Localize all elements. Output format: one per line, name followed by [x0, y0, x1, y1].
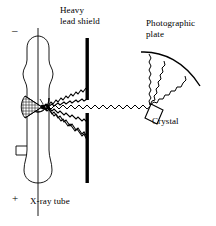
cathode-cup-outline — [21, 96, 42, 118]
blocked-ray-lower-extra — [43, 107, 87, 140]
label-xray-tube: X-ray tube — [30, 196, 70, 207]
primary-beam — [43, 105, 151, 109]
diffracted-beam-group — [149, 54, 186, 105]
label-photographic-plate: Photographic plate — [146, 18, 195, 39]
cathode-cup — [18, 94, 44, 122]
label-cathode-terminal: – — [12, 25, 18, 36]
figure-canvas: Heavy lead shield Photographic plate Cry… — [0, 0, 216, 226]
tube-side-stub — [16, 146, 27, 155]
diffracted-beam-1 — [149, 54, 151, 105]
label-heavy-lead-shield: Heavy lead shield — [60, 5, 100, 26]
label-anode-terminal: + — [12, 193, 18, 204]
lead-shield-upper-bar — [86, 38, 89, 100]
label-crystal: Crystal — [152, 116, 179, 127]
lead-shield-lower-bar — [86, 113, 89, 183]
diffracted-beam-3 — [150, 76, 186, 105]
blocked-ray-group — [43, 88, 87, 140]
